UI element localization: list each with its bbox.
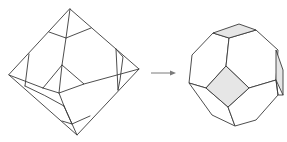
diagram-canvas: [0, 0, 287, 142]
octahedron-outline: [9, 9, 139, 135]
bottom-cut: [62, 116, 90, 124]
arrow-head-icon: [170, 71, 176, 76]
top-cut: [49, 28, 91, 38]
transform-arrow: [151, 71, 176, 76]
truncated-octahedron-figure: [189, 24, 283, 126]
right-cut: [116, 49, 118, 90]
center-pyramid: [43, 65, 84, 93]
octahedron-figure: [9, 9, 139, 135]
left-cut: [25, 54, 29, 86]
